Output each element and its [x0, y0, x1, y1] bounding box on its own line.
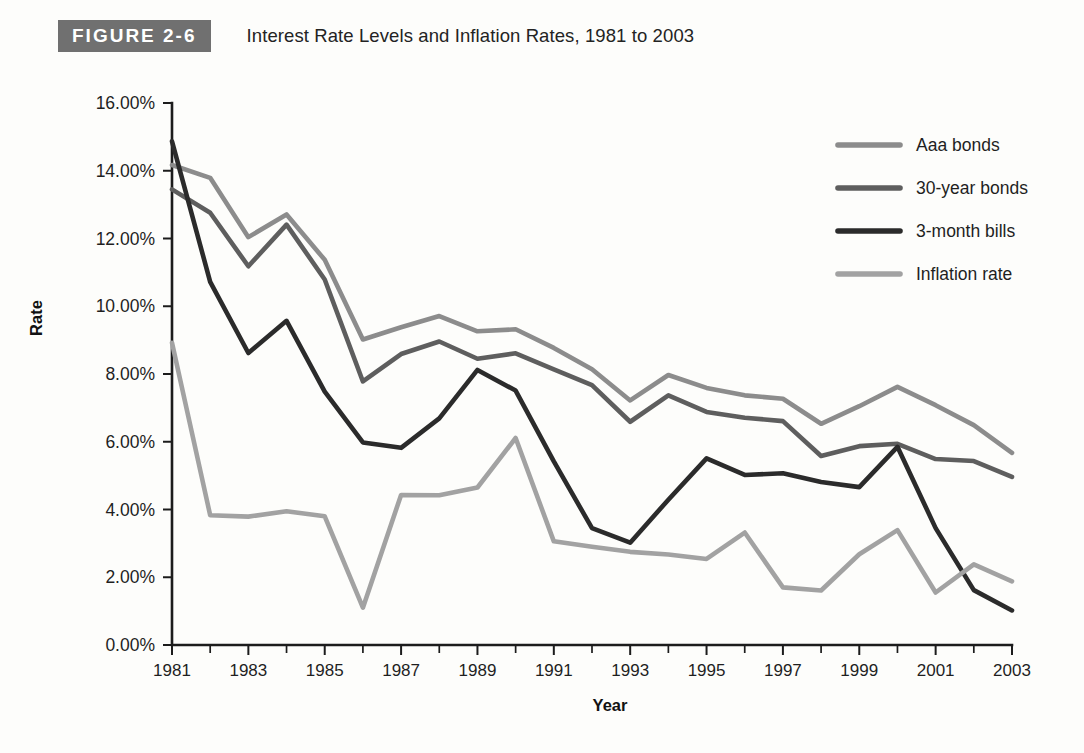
- x-axis-tick-label: 1989: [459, 661, 497, 680]
- x-axis-tick-labels: 1981198319851987198919911993199519971999…: [153, 661, 1031, 680]
- y-axis-tick-label: 14.00%: [96, 161, 155, 181]
- x-axis-tick-label: 1997: [764, 661, 802, 680]
- y-axis-tick-label: 0.00%: [105, 635, 155, 655]
- y-axis-tick-label: 6.00%: [105, 432, 155, 452]
- y-axis-title: Rate: [27, 300, 45, 336]
- x-axis-tick-label: 1993: [611, 661, 649, 680]
- figure-title: Interest Rate Levels and Inflation Rates…: [247, 25, 695, 47]
- x-axis-tick-label: 1985: [306, 661, 344, 680]
- x-axis-tick-label: 1981: [153, 661, 191, 680]
- legend-label-3-month-bills: 3-month bills: [916, 221, 1015, 241]
- x-axis-tick-label: 1987: [382, 661, 420, 680]
- chart-series-group: [172, 141, 1012, 610]
- series-line-aaa-bonds: [172, 165, 1012, 453]
- y-axis-tick-label: 4.00%: [105, 500, 155, 520]
- line-chart: 0.00%2.00%4.00%6.00%8.00%10.00%12.00%14.…: [0, 72, 1084, 753]
- series-line-inflation-rate: [172, 343, 1012, 608]
- x-axis-tick-label: 1995: [688, 661, 726, 680]
- legend-label-inflation-rate: Inflation rate: [916, 264, 1012, 284]
- figure-number-badge: FIGURE 2-6: [58, 20, 211, 52]
- x-axis-tick-label: 2001: [917, 661, 955, 680]
- y-axis-tick-labels: 0.00%2.00%4.00%6.00%8.00%10.00%12.00%14.…: [96, 93, 155, 655]
- figure-header: FIGURE 2-6 Interest Rate Levels and Infl…: [0, 0, 1084, 72]
- legend-label-aaa-bonds: Aaa bonds: [916, 135, 1000, 155]
- chart-legend: Aaa bonds30-year bonds3-month billsInfla…: [838, 135, 1028, 284]
- y-axis-tick-label: 16.00%: [96, 93, 155, 113]
- y-axis-tick-label: 8.00%: [105, 364, 155, 384]
- axis-lines: [172, 103, 1012, 645]
- x-axis-title: Year: [593, 696, 628, 714]
- x-axis-tick-label: 1999: [840, 661, 878, 680]
- y-axis-tick-label: 10.00%: [96, 296, 155, 316]
- legend-label-30-year-bonds: 30-year bonds: [916, 178, 1028, 198]
- x-axis-tick-label: 2003: [993, 661, 1031, 680]
- figure-container: FIGURE 2-6 Interest Rate Levels and Infl…: [0, 0, 1084, 753]
- x-axis-tick-label: 1991: [535, 661, 573, 680]
- y-axis-tick-label: 12.00%: [96, 229, 155, 249]
- y-axis-tick-label: 2.00%: [105, 567, 155, 587]
- chart-plot-area: 0.00%2.00%4.00%6.00%8.00%10.00%12.00%14.…: [0, 72, 1084, 753]
- x-axis-tick-label: 1983: [229, 661, 267, 680]
